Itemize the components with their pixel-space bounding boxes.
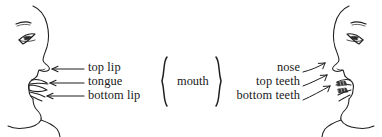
left-nostril [40, 69, 45, 70]
left-arrow-icon-tongue [50, 80, 84, 85]
left-mouth-lips-tongue [29, 80, 48, 101]
left-eye [19, 34, 35, 44]
left-arrow-icon-top-lip [52, 66, 84, 71]
left-arrow-icon-bottom-lip [47, 93, 84, 98]
label-nose: nose [237, 60, 301, 74]
mouth-anatomy-diagram: top lip tongue bottom lip mouth nose top… [0, 0, 382, 137]
label-top-lip: top lip [88, 60, 140, 74]
right-mouth-region [336, 80, 353, 101]
left-eyebrow [16, 22, 31, 26]
right-eyebrow [351, 22, 366, 26]
diagonal-arrow-icon-bottom-teeth [303, 86, 330, 100]
left-brace [162, 57, 167, 106]
label-bottom-lip: bottom lip [88, 88, 140, 102]
diagonal-arrow-icon-top-teeth [303, 75, 327, 86]
label-bottom-teeth: bottom teeth [237, 88, 301, 102]
right-eye [347, 34, 363, 44]
left-chin-jaw-neck [8, 99, 60, 137]
right-nostril [337, 69, 342, 70]
label-top-teeth: top teeth [237, 74, 301, 88]
right-head-profile-outline [333, 6, 350, 80]
right-brace [216, 57, 221, 106]
label-tongue: tongue [88, 74, 140, 88]
right-chin-jaw-neck [322, 99, 374, 137]
line-art-layer [0, 0, 382, 137]
right-label-column: nose top teeth bottom teeth [237, 60, 301, 103]
left-label-column: top lip tongue bottom lip [88, 60, 140, 103]
left-head-profile-outline [32, 6, 49, 80]
label-mouth: mouth [177, 74, 209, 88]
diagonal-arrow-icon-nose [303, 63, 325, 72]
